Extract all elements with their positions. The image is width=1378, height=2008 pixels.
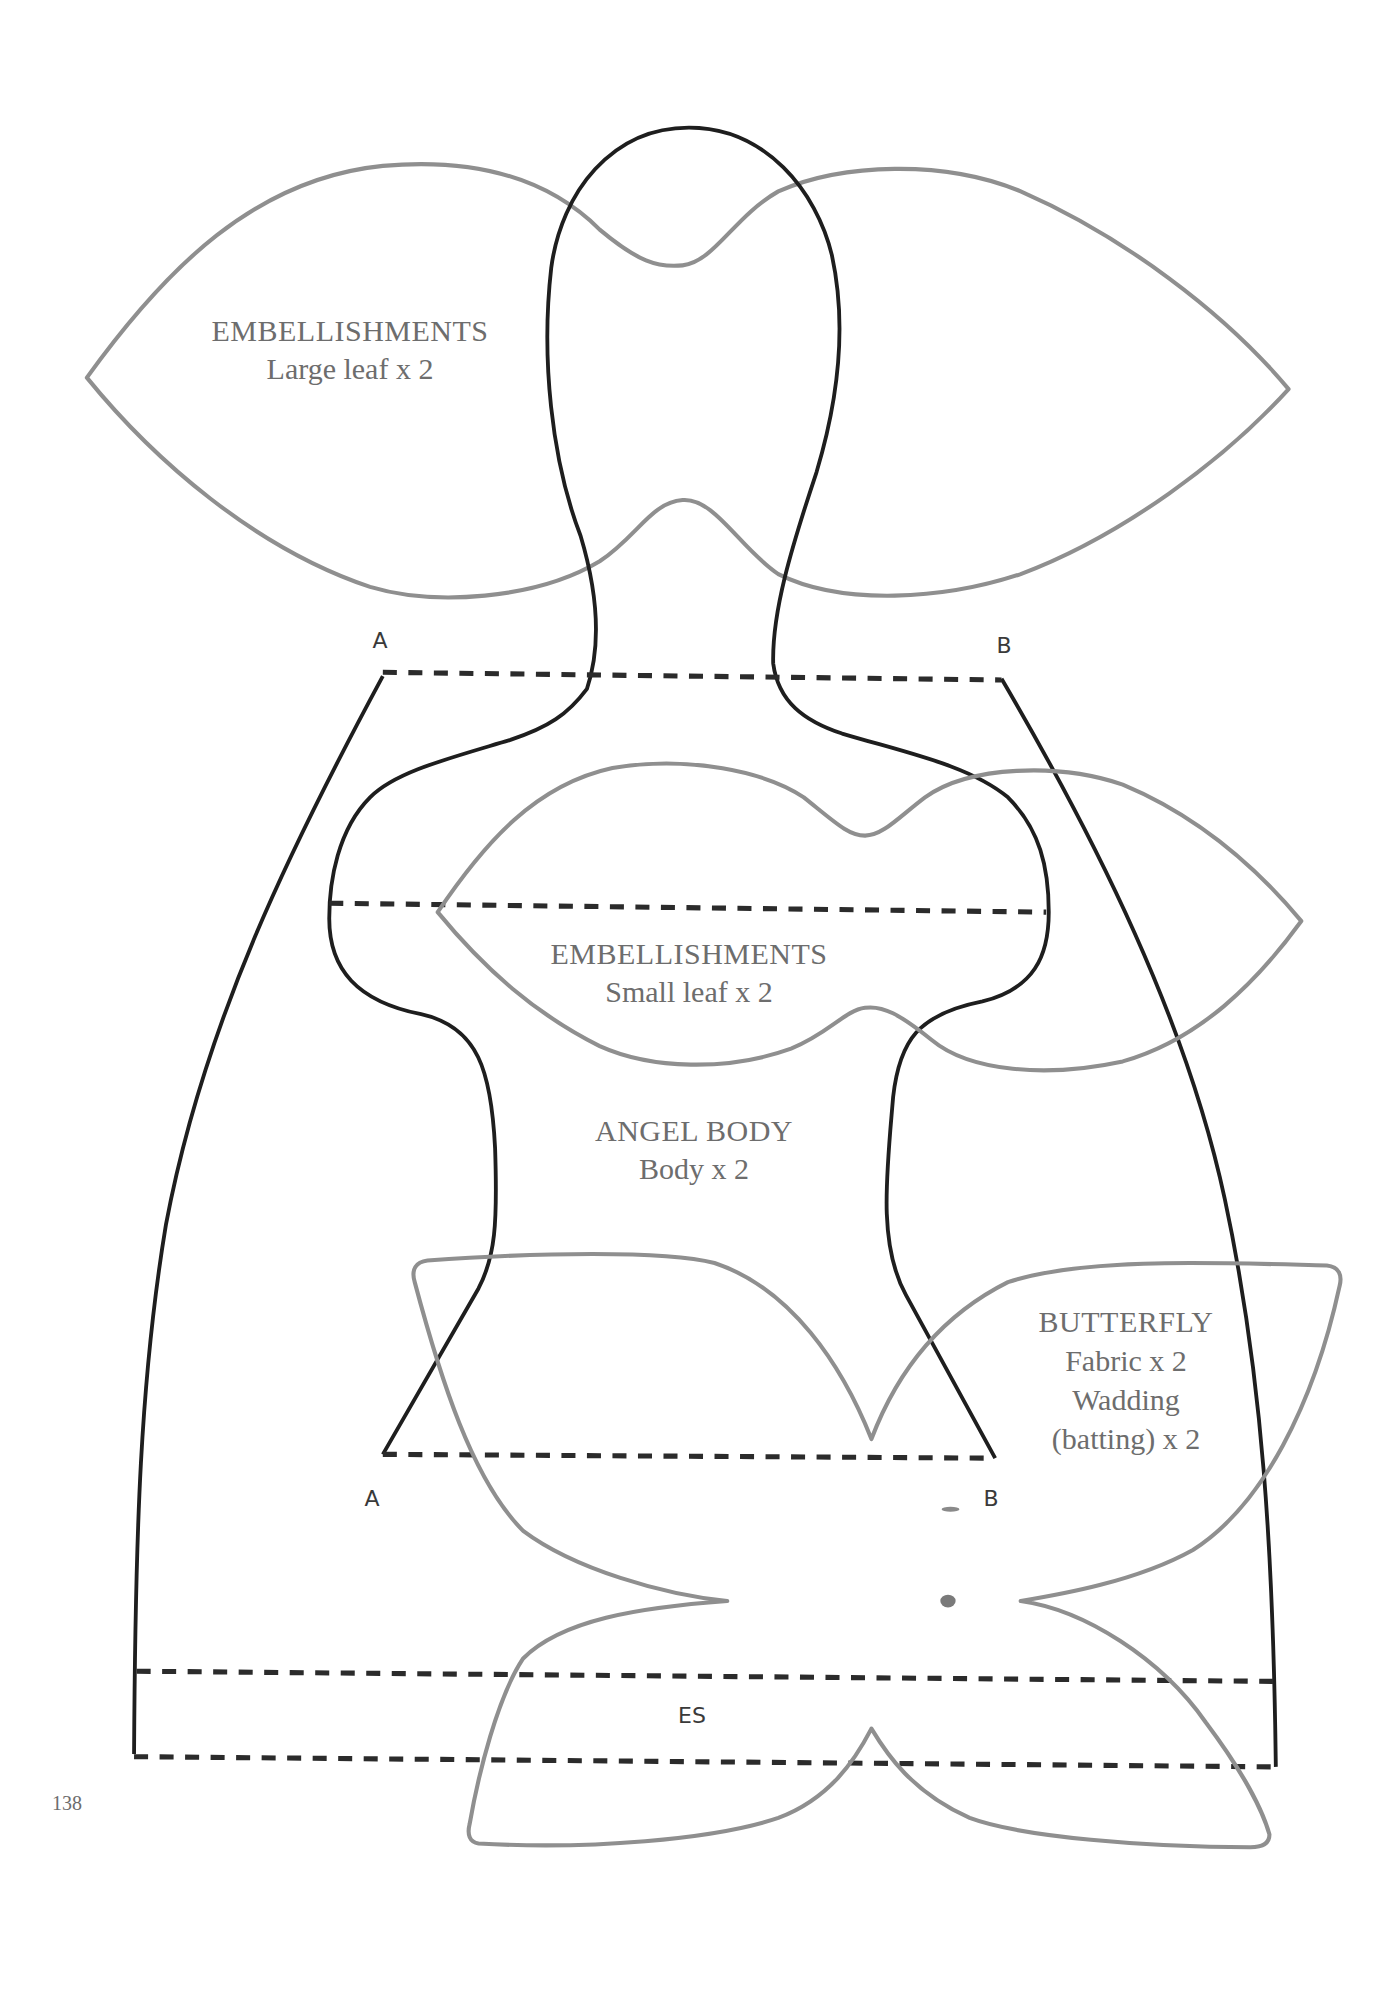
butterfly-line-fabric: Fabric x 2 [1039,1341,1214,1380]
sewing-pattern-page: EMBELLISHMENTS Large leaf x 2 EMBELLISHM… [0,0,1378,2008]
small-leaf-instruction: Small leaf x 2 [551,973,828,1011]
marker-es: ES [678,1703,706,1728]
dashed-line-es-top [137,1671,1276,1681]
dashed-line-es-bottom [134,1757,1276,1767]
small-leaf-label: EMBELLISHMENTS Small leaf x 2 [551,935,828,1011]
angel-body-title: ANGEL BODY [595,1112,793,1150]
butterfly-title: BUTTERFLY [1039,1302,1214,1341]
smudge-mark [942,1507,960,1512]
dashed-line-ab-top [383,672,1002,680]
large-leaf-label: EMBELLISHMENTS Large leaf x 2 [212,312,489,388]
marker-b-bottom: B [983,1486,998,1511]
angel-body-outline-right [689,128,1049,1459]
butterfly-line-wadding: Wadding [1039,1380,1214,1419]
marker-b-top: B [996,633,1011,658]
angel-body-label: ANGEL BODY Body x 2 [595,1112,793,1188]
large-leaf-title: EMBELLISHMENTS [212,312,489,350]
butterfly-label: BUTTERFLY Fabric x 2 Wadding (batting) x… [1039,1302,1214,1458]
large-leaf-instruction: Large leaf x 2 [212,350,489,388]
butterfly-line-batting: (batting) x 2 [1039,1419,1214,1458]
small-leaf-title: EMBELLISHMENTS [551,935,828,973]
smudge-mark [940,1595,955,1608]
page-number: 138 [52,1792,82,1815]
angel-body-instruction: Body x 2 [595,1150,793,1188]
marker-a-top: A [372,628,387,653]
marker-a-bottom: A [364,1486,379,1511]
